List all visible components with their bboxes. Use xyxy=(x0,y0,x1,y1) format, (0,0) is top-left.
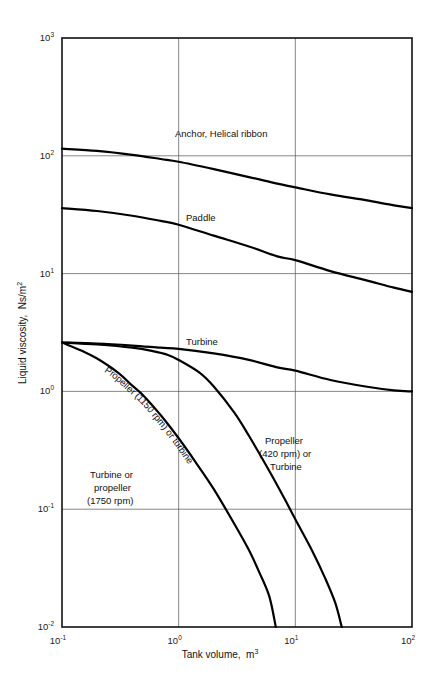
gridlines-group xyxy=(62,38,412,627)
annotation-turbine-1750-line2: propeller xyxy=(94,482,131,493)
y-axis-title: Liquid viscosity, Ns/m2 xyxy=(16,282,28,384)
annotation-propeller-1150-label: Propeller (1150 rpm) or turbine xyxy=(103,364,196,466)
x-axis-title: Tank volume, m3 xyxy=(182,648,259,660)
curves-group: Anchor, Helical ribbonPaddleTurbinePrope… xyxy=(62,149,412,627)
annotation-paddle-label: Paddle xyxy=(186,212,216,223)
data-curve: Anchor, Helical ribbon xyxy=(62,149,412,208)
plot-frame xyxy=(62,38,412,627)
tick-label: 101 xyxy=(40,267,55,279)
annotation-propeller-420-line1: Propeller xyxy=(265,435,303,446)
annotation-propeller-420-line2: (420 rpm) or xyxy=(259,448,311,459)
y-axis-tick-labels: 10310210110010-110-2 xyxy=(38,31,55,632)
tick-label: 103 xyxy=(40,31,55,43)
data-curve: Turbine xyxy=(62,343,412,392)
annotation-turbine-label: Turbine xyxy=(186,336,218,347)
viscosity-vs-tank-volume-chart: Anchor, Helical ribbonPaddleTurbinePrope… xyxy=(0,0,441,683)
tick-label: 100 xyxy=(40,384,55,396)
annotation-propeller-420-line3: Turbine xyxy=(270,461,302,472)
tick-label: 102 xyxy=(40,149,55,161)
annotation-turbine-1750-line1: Turbine or xyxy=(90,469,133,480)
annotation-anchor-label: Anchor, Helical ribbon xyxy=(175,128,267,139)
tick-label: 10-2 xyxy=(38,620,55,632)
tick-label: 100 xyxy=(168,634,183,646)
data-curve: Paddle xyxy=(62,208,412,292)
annotation-turbine-1750-line3: (1750 rpm) xyxy=(87,495,133,506)
figure-container: Anchor, Helical ribbonPaddleTurbinePrope… xyxy=(0,0,441,683)
tick-label: 10-1 xyxy=(50,634,67,646)
tick-label: 10-1 xyxy=(38,502,55,514)
x-axis-tick-labels: 10-1100101102 xyxy=(50,634,416,646)
tick-label: 101 xyxy=(284,634,299,646)
tick-label: 102 xyxy=(401,634,416,646)
